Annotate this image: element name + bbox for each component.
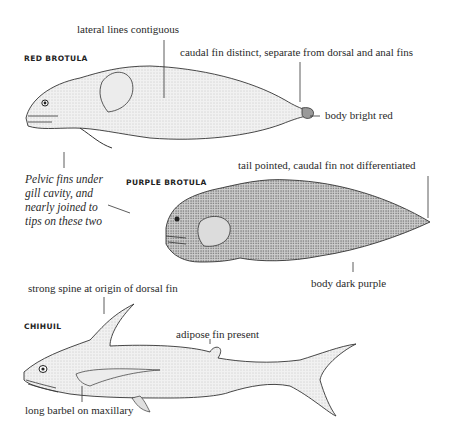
label-caudal-fin-distinct: caudal fin distinct, separate from dorsa… — [180, 47, 413, 58]
chihuil-illustration — [24, 297, 356, 416]
label-lateral-lines: lateral lines contiguous — [77, 24, 179, 35]
species-title-red-brotula: RED BROTULA — [24, 54, 88, 63]
label-long-barbel: long barbel on maxillary — [25, 405, 133, 416]
label-adipose-fin: adipose fin present — [176, 329, 259, 340]
note-line: gill cavity, and — [25, 186, 103, 200]
label-body-dark-purple: body dark purple — [311, 278, 386, 289]
species-title-purple-brotula: PURPLE BROTULA — [126, 178, 207, 187]
label-body-bright-red: body bright red — [325, 110, 393, 121]
purple-brotula-illustration — [108, 176, 430, 272]
label-strong-spine: strong spine at origin of dorsal fin — [28, 283, 178, 294]
pelvic-fins-note: Pelvic fins under gill cavity, and nearl… — [25, 172, 103, 228]
fish-identification-plate: RED BROTULA lateral lines contiguous cau… — [0, 0, 457, 432]
note-line: nearly joined to — [25, 200, 103, 214]
species-title-chihuil: CHIHUIL — [24, 322, 61, 331]
leader-line — [108, 205, 130, 213]
note-line: tips on these two — [25, 214, 103, 228]
note-line: Pelvic fins under — [25, 172, 103, 186]
label-tail-pointed: tail pointed, caudal fin not differentia… — [238, 160, 416, 171]
